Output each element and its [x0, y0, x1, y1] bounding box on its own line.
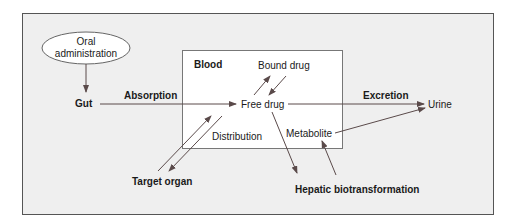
oral-label-line1: Oral [77, 36, 96, 47]
urine-node: Urine [428, 99, 452, 110]
hepatic-biotransformation-node: Hepatic biotransformation [295, 184, 419, 195]
bound-drug-node: Bound drug [258, 60, 310, 71]
gut-node: Gut [75, 98, 93, 109]
pharmacokinetics-diagram: Oral administration Gut Absorption Blood… [0, 0, 509, 223]
absorption-label: Absorption [124, 90, 177, 101]
blood-label: Blood [194, 59, 222, 70]
excretion-label: Excretion [363, 90, 409, 101]
target-organ-node: Target organ [132, 176, 192, 187]
free-drug-node: Free drug [241, 99, 284, 110]
oral-label-line2: administration [55, 48, 117, 59]
metabolite-node: Metabolite [286, 128, 333, 139]
distribution-label: Distribution [212, 131, 262, 142]
